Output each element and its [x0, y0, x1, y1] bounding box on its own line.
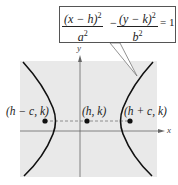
- term2-fraction: (y − k)2 b2: [117, 9, 158, 44]
- x-axis-arrow-icon: [158, 129, 165, 133]
- center-point: [84, 118, 89, 123]
- term2-denominator: b2: [132, 27, 142, 44]
- term1-numerator: (x − h)2: [62, 9, 103, 27]
- y-axis-label: y: [77, 43, 81, 53]
- focus-left-point: [42, 118, 47, 123]
- hyperbola-diagram: (x − h)2 a2 − (y − k)2 b2 = 1 y x (h − c…: [0, 0, 178, 185]
- term1-denominator: a2: [78, 27, 88, 44]
- equation-rhs: = 1: [160, 16, 174, 28]
- minus-operator: −: [110, 16, 117, 31]
- focus-right-point: [127, 118, 132, 123]
- term1-fraction: (x − h)2 a2: [62, 9, 103, 44]
- y-axis-arrow-icon: [78, 55, 82, 62]
- x-axis-label: x: [167, 125, 171, 135]
- term2-numerator: (y − k)2: [117, 9, 158, 27]
- focus-right-label: (h + c, k): [124, 105, 167, 117]
- focus-left-label: (h − c, k): [6, 105, 49, 117]
- center-label: (h, k): [82, 105, 106, 117]
